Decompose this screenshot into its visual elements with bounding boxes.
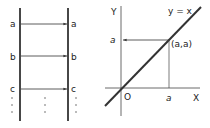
identity-map-diagram: a a b b c c <box>10 8 77 121</box>
identity-graph-diagram: Y X O y = x (a,a) a a <box>105 6 201 116</box>
identity-line <box>105 7 201 106</box>
x-tick-label: a <box>166 93 172 103</box>
right-label-a: a <box>71 19 77 29</box>
diagram-canvas: a a b b c c Y X O y = x (a,a) a a <box>0 0 210 128</box>
continuation-dots <box>11 97 76 112</box>
y-tick-label: a <box>110 35 116 45</box>
y-axis-label: Y <box>110 7 117 17</box>
right-label-c: c <box>71 84 76 94</box>
origin-label: O <box>124 92 131 102</box>
right-label-b: b <box>71 52 77 62</box>
point-label: (a,a) <box>171 39 192 49</box>
left-label-c: c <box>10 84 15 94</box>
x-axis-label: X <box>193 93 199 103</box>
line-label: y = x <box>168 6 193 16</box>
left-label-a: a <box>10 19 16 29</box>
left-label-b: b <box>10 52 16 62</box>
